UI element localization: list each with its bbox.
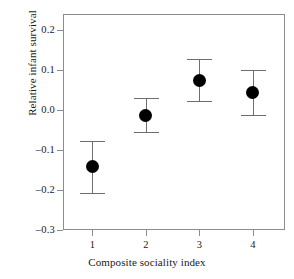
y-tick-label: –0.3 <box>36 225 55 235</box>
error-bar-cap <box>241 115 266 116</box>
data-point-marker <box>86 160 99 173</box>
x-tick-label: 1 <box>80 239 104 250</box>
plot-area <box>63 14 285 230</box>
y-tick-label: 0.1 <box>41 65 55 75</box>
chart-container: 0.20.10.0–0.1–0.2–0.3 Relative infant su… <box>0 0 294 279</box>
y-tick-mark <box>57 110 63 111</box>
y-tick-label: –0.1 <box>36 145 55 155</box>
y-tick-mark <box>57 150 63 151</box>
error-bar-cap <box>134 98 159 99</box>
y-tick-mark <box>57 190 63 191</box>
x-tick-label: 2 <box>134 239 158 250</box>
x-axis-title: Composite sociality index <box>0 256 294 268</box>
error-bar-cap <box>80 193 105 194</box>
error-bar-cap <box>187 59 212 60</box>
y-tick-mark <box>57 30 63 31</box>
x-tick-mark <box>253 230 254 236</box>
error-bar-cap <box>80 141 105 142</box>
x-tick-label: 4 <box>241 239 265 250</box>
x-tick-mark <box>146 230 147 236</box>
x-tick-mark <box>199 230 200 236</box>
data-point-marker <box>246 86 259 99</box>
y-tick-mark <box>57 230 63 231</box>
x-tick-mark <box>92 230 93 236</box>
y-tick-mark <box>57 70 63 71</box>
y-tick-label: 0.2 <box>41 25 55 35</box>
y-tick-label: –0.2 <box>36 185 55 195</box>
data-point-marker <box>193 74 206 87</box>
error-bar-cap <box>187 101 212 102</box>
x-tick-label: 3 <box>187 239 211 250</box>
error-bar-cap <box>134 132 159 133</box>
y-axis-title: Relative infant survival <box>26 0 38 158</box>
y-tick-label: 0.0 <box>41 105 55 115</box>
error-bar-cap <box>241 70 266 71</box>
